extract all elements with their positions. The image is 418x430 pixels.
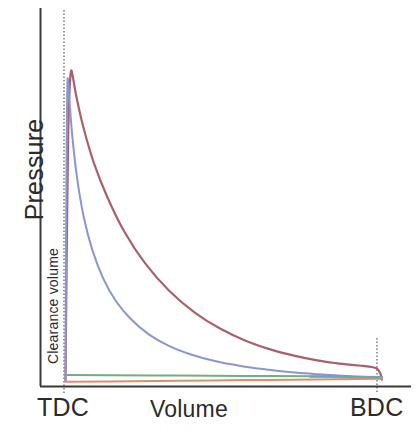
- y-axis-title: Pressure: [20, 100, 49, 240]
- x-axis-title: Volume: [150, 396, 228, 423]
- x-tick-label-tdc: TDC: [37, 393, 89, 422]
- clearance-volume-annotation: Clearance volume: [45, 231, 61, 381]
- pv-diagram-chart: Pressure Clearance volume Volume TDC BDC: [0, 0, 418, 430]
- series-bdc-transition-segment: [310, 377, 382, 378]
- plot-canvas: [0, 0, 418, 430]
- x-tick-label-bdc: BDC: [350, 393, 403, 422]
